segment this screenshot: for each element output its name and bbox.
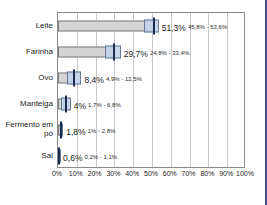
value-label: 8,4% — [85, 75, 104, 85]
category-label: Farinha — [26, 47, 53, 56]
confidence-interval-label: 1% - 2,8% — [88, 128, 116, 134]
x-tick-label: 30% — [106, 170, 120, 177]
value-annotation: 1,8%1% - 2,8% — [66, 121, 115, 139]
x-axis-tick-labels: 0%10%20%30%40%50%60%70%80%90%100% — [57, 170, 245, 184]
category-label: Fermento em pó — [0, 120, 53, 138]
confidence-interval-label: 45,8% - 53,6% — [188, 24, 227, 30]
category-label: Ovo — [38, 73, 53, 82]
right-accent-rule — [265, 0, 267, 205]
confidence-interval-label: 1,7% - 6,8% — [88, 102, 121, 108]
category-label: Sal — [41, 151, 53, 160]
bar-row: 4%1,7% - 6,8% — [58, 91, 244, 117]
point-estimate-tick — [60, 122, 62, 139]
value-label: 4% — [74, 101, 86, 111]
value-annotation: 51,3%45,8% - 53,6% — [162, 17, 227, 35]
x-tick-label: 0% — [52, 170, 62, 177]
confidence-interval-label: 0,2% - 1,1% — [84, 154, 117, 160]
value-label: 1,8% — [66, 127, 85, 137]
category-label: Leite — [36, 21, 53, 30]
x-tick-label: 90% — [219, 170, 233, 177]
value-label: 29,7% — [124, 49, 148, 59]
point-estimate-tick — [113, 44, 115, 61]
bar-row: 29,7%24,8% - 33,4% — [58, 39, 244, 65]
value-annotation: 0,6%0,2% - 1,1% — [63, 147, 117, 165]
category-label: Manteiga — [20, 99, 53, 108]
x-tick-label: 50% — [144, 170, 158, 177]
value-annotation: 29,7%24,8% - 33,4% — [124, 43, 189, 61]
bar-chart: LeiteFarinhaOvoManteigaFermento em póSal… — [0, 0, 258, 205]
point-estimate-tick — [65, 96, 67, 113]
point-estimate-tick — [153, 18, 155, 35]
point-estimate-tick — [58, 148, 60, 165]
x-tick-label: 80% — [200, 170, 214, 177]
bar-row: 51,3%45,8% - 53,6% — [58, 13, 244, 39]
x-tick-label: 20% — [88, 170, 102, 177]
value-label: 51,3% — [162, 23, 186, 33]
category-axis: LeiteFarinhaOvoManteigaFermento em póSal — [0, 12, 55, 168]
point-estimate-tick — [73, 70, 75, 87]
bar-row: 1,8%1% - 2,8% — [58, 117, 244, 143]
x-tick-label: 10% — [69, 170, 83, 177]
confidence-interval-label: 4,9% - 12,5% — [106, 76, 142, 82]
x-tick-label: 60% — [163, 170, 177, 177]
bar-row: 0,6%0,2% - 1,1% — [58, 143, 244, 169]
x-tick-label: 100% — [236, 170, 254, 177]
x-tick-label: 40% — [125, 170, 139, 177]
plot-area: 51,3%45,8% - 53,6%29,7%24,8% - 33,4%8,4%… — [57, 12, 245, 168]
confidence-interval-box — [144, 20, 159, 33]
value-annotation: 8,4%4,9% - 12,5% — [85, 69, 142, 87]
value-annotation: 4%1,7% - 6,8% — [74, 95, 121, 113]
confidence-interval-label: 24,8% - 33,4% — [150, 50, 189, 56]
value-bar — [58, 21, 154, 32]
bar-row: 8,4%4,9% - 12,5% — [58, 65, 244, 91]
x-tick-label: 70% — [182, 170, 196, 177]
value-label: 0,6% — [63, 153, 82, 163]
